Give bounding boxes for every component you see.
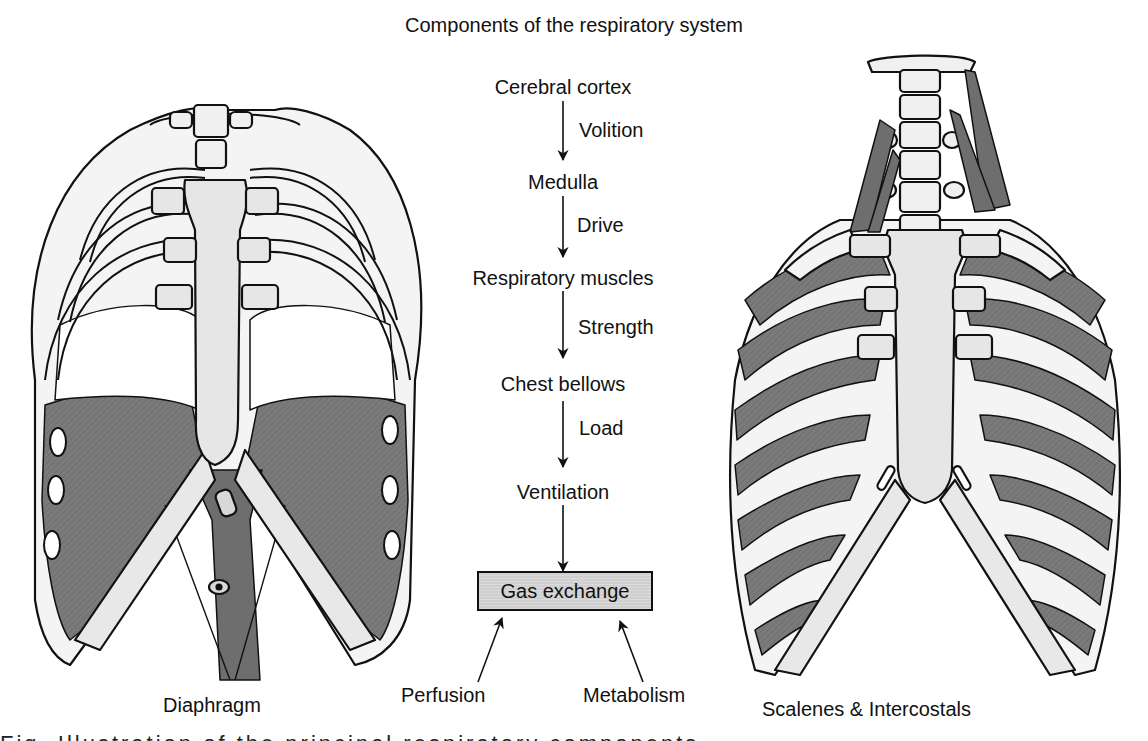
arrow-metabolism bbox=[620, 621, 643, 682]
input-perfusion: Perfusion bbox=[401, 684, 486, 707]
figure-label-diaphragm: Diaphragm bbox=[163, 694, 261, 717]
node-respiratory-muscles: Respiratory muscles bbox=[472, 267, 653, 290]
diaphragm-illustration bbox=[32, 105, 421, 680]
input-metabolism: Metabolism bbox=[583, 684, 685, 707]
figure-caption-text: Fig. Illustration of the principal respi… bbox=[0, 734, 1148, 741]
edge-label-volition: Volition bbox=[579, 119, 644, 142]
diagram-title: Components of the respiratory system bbox=[0, 14, 1148, 37]
node-chest-bellows: Chest bellows bbox=[501, 373, 626, 396]
node-ventilation: Ventilation bbox=[517, 481, 609, 504]
scalenes-intercostals-illustration bbox=[730, 56, 1120, 675]
node-medulla: Medulla bbox=[528, 171, 598, 194]
arrow-perfusion bbox=[478, 618, 502, 682]
node-cerebral-cortex: Cerebral cortex bbox=[495, 76, 632, 99]
edge-label-drive: Drive bbox=[577, 214, 624, 237]
figure-label-scalenes-intercostals: Scalenes & Intercostals bbox=[762, 698, 971, 721]
edge-label-strength: Strength bbox=[578, 316, 654, 339]
figure-caption-cropped: Fig. Illustration of the principal respi… bbox=[0, 734, 1148, 741]
node-gas-exchange: Gas exchange bbox=[477, 571, 653, 611]
edge-label-load: Load bbox=[579, 417, 624, 440]
gas-exchange-label: Gas exchange bbox=[501, 580, 630, 603]
diagram-canvas bbox=[0, 0, 1148, 741]
